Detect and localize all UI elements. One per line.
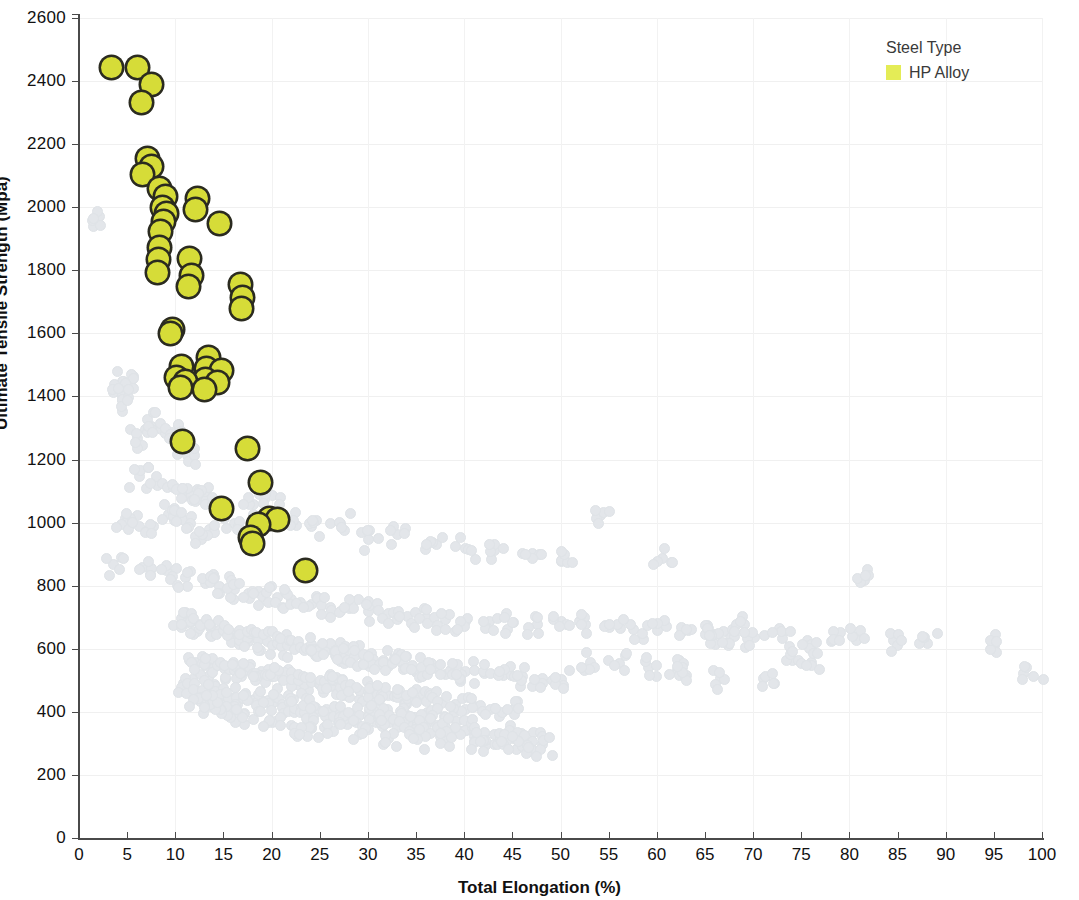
data-point-background bbox=[223, 624, 234, 635]
data-point-background bbox=[190, 459, 201, 470]
data-point-background bbox=[729, 626, 740, 637]
data-point-background bbox=[258, 721, 269, 732]
data-point-hp-alloy bbox=[183, 197, 208, 222]
data-point-background bbox=[558, 683, 569, 694]
data-point-background bbox=[265, 649, 276, 660]
data-point-background bbox=[619, 665, 630, 676]
data-point-hp-alloy bbox=[207, 211, 232, 236]
data-point-background bbox=[466, 545, 477, 556]
x-tick-label: 65 bbox=[680, 845, 730, 865]
data-point-background bbox=[177, 483, 188, 494]
data-point-hp-alloy bbox=[170, 429, 195, 454]
data-point-background bbox=[399, 528, 410, 539]
data-point-hp-alloy bbox=[145, 260, 170, 285]
data-point-background bbox=[1019, 661, 1030, 672]
data-point-background bbox=[452, 624, 463, 635]
data-point-background bbox=[435, 728, 446, 739]
y-tick-label: 2200 bbox=[0, 134, 66, 154]
y-tick-mark bbox=[72, 144, 79, 145]
legend-title: Steel Type bbox=[886, 36, 969, 59]
data-point-background bbox=[520, 549, 531, 560]
data-point-background bbox=[488, 625, 499, 636]
data-point-background bbox=[327, 671, 338, 682]
data-point-background bbox=[390, 654, 401, 665]
x-tick-mark bbox=[994, 832, 995, 839]
data-point-background bbox=[305, 703, 316, 714]
data-point-background bbox=[480, 709, 491, 720]
data-point-background bbox=[425, 713, 436, 724]
data-point-background bbox=[704, 630, 715, 641]
x-tick-mark bbox=[1042, 832, 1043, 839]
data-point-background bbox=[435, 669, 446, 680]
data-point-background bbox=[343, 686, 354, 697]
data-point-background bbox=[373, 533, 384, 544]
data-point-background bbox=[581, 647, 592, 658]
data-point-background bbox=[812, 648, 823, 659]
data-point-background bbox=[744, 640, 755, 651]
x-tick-label: 0 bbox=[54, 845, 104, 865]
data-point-hp-alloy bbox=[176, 274, 201, 299]
x-tick-mark bbox=[127, 832, 128, 839]
y-tick-mark bbox=[72, 396, 79, 397]
data-point-background bbox=[221, 687, 232, 698]
x-tick-mark bbox=[175, 832, 176, 839]
y-tick-label: 800 bbox=[0, 576, 66, 596]
y-tick-mark bbox=[72, 523, 79, 524]
data-point-background bbox=[394, 611, 405, 622]
data-point-background bbox=[400, 651, 411, 662]
legend-item-label: HP Alloy bbox=[909, 61, 969, 84]
y-axis-cap bbox=[72, 14, 79, 15]
x-tick-label: 25 bbox=[295, 845, 345, 865]
data-point-background bbox=[348, 715, 359, 726]
data-point-background bbox=[544, 732, 555, 743]
data-point-background bbox=[339, 602, 350, 613]
data-point-background bbox=[845, 623, 856, 634]
data-point-background bbox=[576, 619, 587, 630]
data-point-background bbox=[363, 651, 374, 662]
data-point-background bbox=[194, 526, 205, 537]
data-point-background bbox=[681, 624, 692, 635]
data-point-background bbox=[238, 658, 249, 669]
data-point-background bbox=[590, 505, 601, 516]
data-point-background bbox=[145, 570, 156, 581]
x-tick-mark bbox=[657, 832, 658, 839]
legend-item-hp-alloy[interactable]: HP Alloy bbox=[886, 61, 969, 84]
data-point-background bbox=[313, 732, 324, 743]
x-tick-mark bbox=[320, 832, 321, 839]
y-tick-mark bbox=[72, 775, 79, 776]
data-point-background bbox=[714, 667, 725, 678]
data-point-background bbox=[319, 592, 330, 603]
data-point-hp-alloy bbox=[235, 436, 260, 461]
data-point-background bbox=[234, 578, 245, 589]
y-tick-mark bbox=[72, 333, 79, 334]
data-point-background bbox=[471, 727, 482, 738]
y-tick-label: 400 bbox=[0, 702, 66, 722]
data-point-background bbox=[305, 632, 316, 643]
chart-root: 0200400600800100012001400160018002000220… bbox=[0, 0, 1079, 900]
data-point-background bbox=[391, 741, 402, 752]
data-point-background bbox=[466, 744, 477, 755]
x-tick-label: 15 bbox=[198, 845, 248, 865]
x-tick-mark bbox=[705, 832, 706, 839]
x-tick-label: 35 bbox=[391, 845, 441, 865]
data-point-background bbox=[208, 573, 219, 584]
data-point-background bbox=[618, 614, 629, 625]
data-point-hp-alloy bbox=[229, 296, 254, 321]
x-tick-label: 70 bbox=[728, 845, 778, 865]
legend-swatch-icon bbox=[886, 65, 901, 80]
data-point-background bbox=[886, 646, 897, 657]
data-point-background bbox=[556, 546, 567, 557]
data-point-hp-alloy bbox=[248, 470, 273, 495]
data-point-background bbox=[255, 686, 266, 697]
data-point-background bbox=[111, 522, 122, 533]
data-point-background bbox=[143, 556, 154, 567]
data-point-background bbox=[209, 520, 220, 531]
data-point-background bbox=[446, 732, 457, 743]
x-tick-label: 85 bbox=[873, 845, 923, 865]
data-point-background bbox=[190, 538, 201, 549]
data-point-background bbox=[364, 616, 375, 627]
data-point-background bbox=[369, 664, 380, 675]
data-point-background bbox=[425, 664, 436, 675]
y-tick-label: 200 bbox=[0, 765, 66, 785]
gridline-vertical bbox=[657, 18, 658, 838]
